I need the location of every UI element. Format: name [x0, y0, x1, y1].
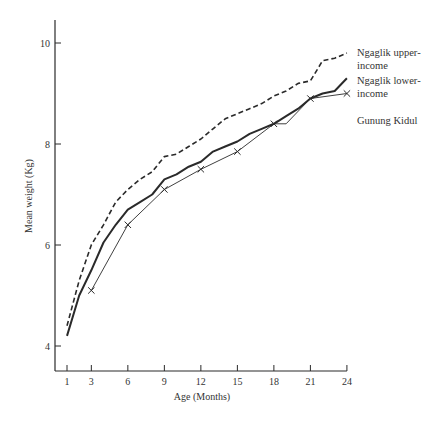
labels-layer: Ngaglik upper-incomeNgaglik lower-income…	[357, 47, 421, 126]
x-tick-label: 1	[65, 376, 70, 387]
x-tick-label: 3	[89, 376, 94, 387]
x-tick-label: 21	[305, 376, 315, 387]
x-tick-label: 12	[196, 376, 206, 387]
series-line-ngaglik-lower-income	[67, 78, 347, 336]
x-axis-label: Age (Months)	[174, 391, 230, 403]
x-tick-label: 18	[269, 376, 279, 387]
y-tick-label: 4	[45, 341, 50, 352]
x-marker-icon	[88, 287, 94, 293]
legend-label: Ngaglik upper-	[357, 47, 421, 58]
y-axis-label: Mean weight (Kg)	[23, 159, 35, 233]
x-tick-label: 9	[162, 376, 167, 387]
x-marker-icon	[198, 166, 204, 172]
series-layer	[67, 53, 350, 336]
y-tick-label: 6	[45, 240, 50, 251]
legend-label: Ngaglik lower-	[357, 75, 421, 86]
y-tick-label: 8	[45, 139, 50, 150]
y-tick-label: 10	[40, 38, 50, 49]
legend-label: Gunung Kidul	[357, 115, 417, 126]
legend-label: income	[357, 60, 388, 71]
x-tick-label: 6	[125, 376, 130, 387]
series-line-ngaglik-upper-income	[67, 53, 347, 326]
x-tick-label: 15	[232, 376, 242, 387]
x-marker-icon	[234, 148, 240, 154]
line-chart: 4681013691215182124 Ngaglik upper-income…	[0, 0, 436, 427]
axes: 4681013691215182124	[40, 20, 352, 387]
x-tick-label: 24	[342, 376, 352, 387]
x-marker-icon	[161, 186, 167, 192]
legend-label: income	[357, 88, 388, 99]
x-marker-icon	[125, 222, 131, 228]
